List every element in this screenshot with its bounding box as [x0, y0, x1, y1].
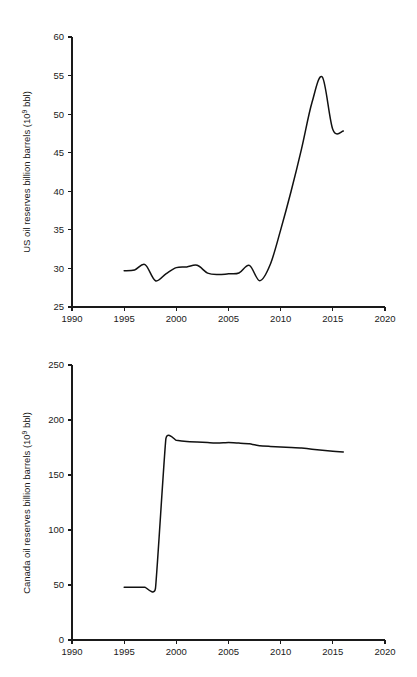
- x-tick-label: 1990: [61, 313, 82, 324]
- canada-series-path: [124, 435, 343, 592]
- y-tick-label: 30: [53, 263, 64, 274]
- canada-y-tick-labels: 050100150200250: [48, 359, 64, 645]
- y-tick-label: 50: [53, 109, 64, 120]
- x-tick-label: 2010: [270, 313, 291, 324]
- y-tick-label: 0: [59, 634, 64, 645]
- us-y-axis-title: US oil reserves billion barrels (109 bbl…: [21, 91, 33, 253]
- x-tick-label: 2005: [218, 646, 239, 657]
- y-tick-label: 25: [53, 301, 64, 312]
- us-chart-axes: [72, 37, 385, 307]
- canada-chart-svg: 050100150200250 199019952000200520102015…: [0, 338, 417, 676]
- us-series-path: [124, 76, 343, 281]
- y-tick-label: 40: [53, 186, 64, 197]
- x-tick-label: 2020: [374, 646, 395, 657]
- y-tick-label: 200: [48, 414, 64, 425]
- y-tick-label: 50: [53, 579, 64, 590]
- y-tick-label: 55: [53, 70, 64, 81]
- canada-x-tick-labels: 1990199520002005201020152020: [61, 646, 395, 657]
- y-tick-label: 35: [53, 224, 64, 235]
- x-tick-label: 2005: [218, 313, 239, 324]
- y-tick-label: 100: [48, 524, 64, 535]
- y-tick-label: 60: [53, 31, 64, 42]
- x-tick-label: 2020: [374, 313, 395, 324]
- canada-x-ticks: [72, 640, 385, 644]
- x-tick-label: 2015: [322, 313, 343, 324]
- canada-y-axis-title: Canada oil reserves billion barrels (109…: [21, 412, 33, 594]
- y-tick-label: 150: [48, 469, 64, 480]
- x-tick-label: 2010: [270, 646, 291, 657]
- y-tick-label: 250: [48, 359, 64, 370]
- us-y-ticks: [68, 37, 72, 307]
- x-tick-label: 1995: [114, 646, 135, 657]
- us-x-tick-labels: 1990199520002005201020152020: [61, 313, 395, 324]
- x-tick-label: 1990: [61, 646, 82, 657]
- us-y-tick-labels: 2530354045505560: [53, 31, 64, 312]
- us-chart-svg: 2530354045505560 19901995200020052010201…: [0, 0, 417, 338]
- canada-y-ticks: [68, 365, 72, 640]
- x-tick-label: 2000: [166, 313, 187, 324]
- us-x-ticks: [72, 307, 385, 311]
- x-tick-label: 1995: [114, 313, 135, 324]
- canada-chart-axes: [72, 365, 385, 640]
- us-oil-reserves-chart: 2530354045505560 19901995200020052010201…: [0, 0, 417, 338]
- x-tick-label: 2015: [322, 646, 343, 657]
- canada-oil-reserves-chart: 050100150200250 199019952000200520102015…: [0, 338, 417, 676]
- x-tick-label: 2000: [166, 646, 187, 657]
- y-tick-label: 45: [53, 147, 64, 158]
